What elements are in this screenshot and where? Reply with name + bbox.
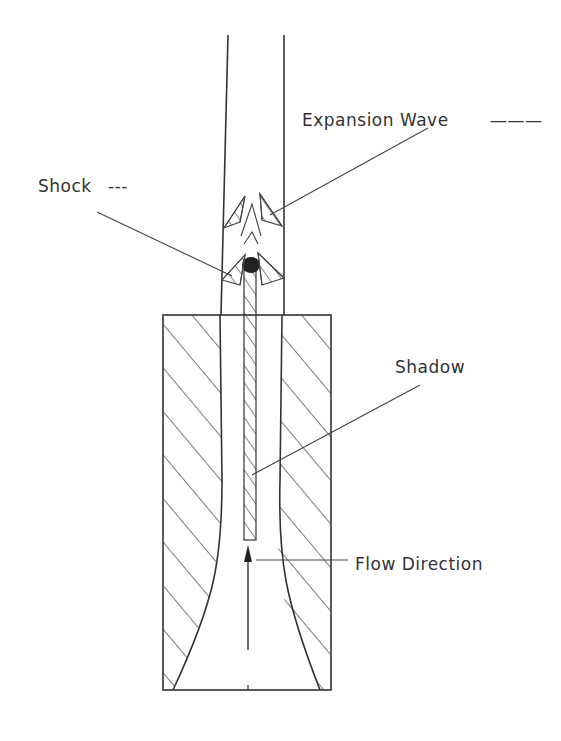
label-expansion-wave-legend: ——— [490,110,543,130]
label-expansion-wave: Expansion Wave [302,110,449,130]
label-flow-direction: Flow Direction [355,554,483,574]
label-shadow: Shadow [395,357,465,377]
shadow-leader [252,385,420,475]
label-shock: Shock [38,176,92,196]
flow-arrow [244,545,252,690]
shock-leader [97,212,232,276]
expansion-wave-leader [270,128,428,215]
label-shock-legend: --- [108,176,128,196]
nozzle-diagram: Expansion Wave ——— Shock --- Shadow Flow… [0,0,561,741]
shadow-strip [244,270,256,540]
expansion-wave-fan [224,194,282,244]
